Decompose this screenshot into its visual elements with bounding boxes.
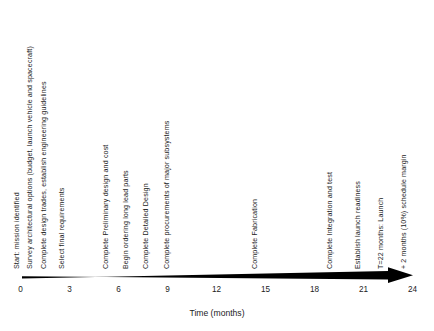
milestone-label: Complete Preliminary design and cost [103, 144, 110, 269]
timeline-arrow [0, 0, 434, 331]
milestone-label: Select final requirements [59, 187, 66, 269]
milestone-label: Complete procurements of major subsystem… [164, 120, 171, 269]
milestone-label: Begin ordering long lead parts [123, 170, 130, 269]
timeline-arrow-shape [22, 267, 413, 283]
milestone-label: Complete Fabrication [252, 199, 259, 269]
axis-tick-label: 3 [67, 286, 72, 294]
axis-tick-label: 24 [408, 286, 417, 294]
axis-tick-label: 21 [359, 286, 368, 294]
milestone-label: Complete Integration and test [327, 172, 334, 269]
milestone-label: + 2 months (10%) schedule margin [401, 154, 408, 269]
axis-tick-label: 0 [18, 286, 23, 294]
axis-title: Time (months) [0, 309, 434, 318]
axis-tick-label: 9 [165, 286, 170, 294]
axis-tick-label: 6 [116, 286, 121, 294]
milestone-label: Survey architectural options (budget, la… [27, 46, 34, 269]
mission-timeline-figure: Start: mission identifiedSurvey architec… [0, 0, 434, 331]
milestone-label: Establish launch readiness [355, 181, 362, 269]
milestone-label: Start: mission identified [13, 192, 20, 269]
milestone-label: Complete design trades, establish engine… [41, 81, 48, 269]
milestone-label: Complete Detailed Design [142, 183, 149, 269]
axis-tick-label: 18 [310, 286, 319, 294]
axis-tick-label: 12 [212, 286, 221, 294]
axis-tick-label: 15 [261, 286, 270, 294]
milestone-label: T=22 months: Launch [378, 197, 385, 269]
